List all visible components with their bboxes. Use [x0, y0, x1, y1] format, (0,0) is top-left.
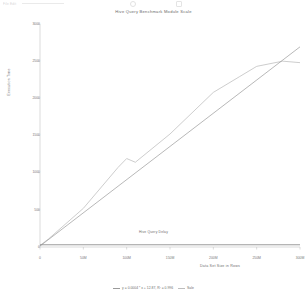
plot-canvas [0, 0, 307, 301]
delay-annotation: Hive Query Delay [0, 230, 307, 234]
chart-legend: y = 0.0004 * x + 12.87, R² = 0.996 Sale [0, 286, 307, 290]
legend-item-trendline[interactable]: y = 0.0004 * x + 12.87, R² = 0.996 [113, 286, 173, 290]
series-trendline [40, 47, 300, 246]
legend-item-sale[interactable]: Sale [178, 286, 194, 290]
axis-lines [38, 24, 300, 250]
legend-swatch [113, 288, 120, 289]
legend-label: Sale [187, 286, 194, 290]
chart-area: Hive Query Benchmark Module Scale Execut… [0, 0, 307, 301]
legend-label: y = 0.0004 * x + 12.87, R² = 0.996 [122, 286, 173, 290]
series-sale [40, 61, 300, 245]
legend-swatch [178, 288, 185, 289]
series-lines [40, 47, 300, 246]
